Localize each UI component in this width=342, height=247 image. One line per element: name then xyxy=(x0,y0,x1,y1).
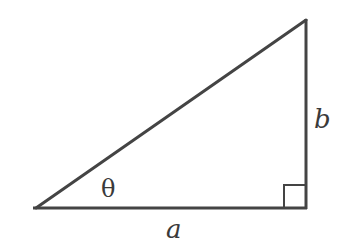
right-angle-marker xyxy=(284,185,306,208)
side-label-a: a xyxy=(166,214,182,244)
angle-label-theta: θ xyxy=(101,175,115,203)
right-triangle-diagram: θ a b xyxy=(0,0,342,247)
hypotenuse xyxy=(36,20,306,208)
side-label-b: b xyxy=(314,104,331,134)
